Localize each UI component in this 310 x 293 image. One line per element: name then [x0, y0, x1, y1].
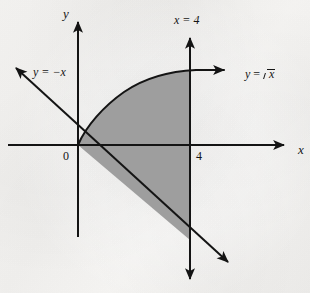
math-figure: y x 0 4 x = 4 y = −x y = x [0, 0, 310, 293]
plot-canvas [0, 0, 310, 293]
shaded-region [78, 71, 190, 240]
y-axis-label: y [63, 7, 69, 20]
curve-label-radicand: x [269, 67, 274, 81]
x-tick-label-4: 4 [196, 150, 202, 162]
curve-label-y-equals-sqrt-x: y = x [245, 68, 274, 80]
vertical-line-label: x = 4 [174, 14, 199, 26]
radical-icon: x [263, 68, 274, 80]
curve-label-relation: = [250, 67, 263, 81]
line-label-y-equals-negative-x: y = −x [33, 66, 66, 78]
origin-label: 0 [63, 150, 69, 162]
x-axis-label: x [298, 143, 304, 156]
